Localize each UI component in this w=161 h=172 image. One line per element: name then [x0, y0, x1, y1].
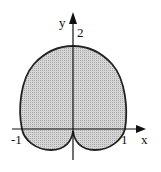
y-tick-2: 2 — [77, 26, 84, 39]
x-axis-label: x — [141, 133, 148, 146]
y-axis-label: y — [59, 16, 66, 29]
x-tick-1: 1 — [121, 133, 128, 146]
x-tick-neg1: -1 — [11, 133, 22, 146]
y-axis-arrow-icon — [69, 12, 77, 24]
